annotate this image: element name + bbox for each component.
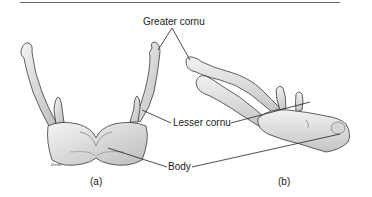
caption-a: (a) [90,177,102,187]
label-lesser-cornu: Lesser cornu [173,118,231,128]
label-body: Body [168,162,191,172]
hyoid-anterior-view [21,42,160,165]
leader-greater-cornu-a [158,28,172,50]
artist-signature: Denk [51,162,62,167]
leader-greater-cornu-b [172,28,190,60]
label-greater-cornu: Greater cornu [143,17,205,27]
leader-lesser-cornu-a [142,110,171,123]
leader-body-b [192,134,340,167]
caption-b: (b) [278,177,290,187]
